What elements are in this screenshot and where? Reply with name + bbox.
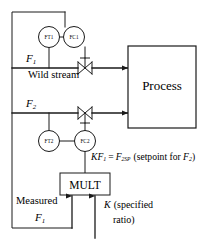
ratio-k-symbol: K <box>104 199 111 210</box>
mult-block-label: MULT <box>69 179 101 191</box>
equation-f1-subscript: 1 <box>103 156 106 162</box>
instrument-fc2: FC2 <box>75 131 96 152</box>
equation-note-open: (setpoint for <box>133 151 183 162</box>
stream2-flow-label: F2 <box>26 98 36 110</box>
instrument-ft1: FT1 <box>39 27 60 48</box>
stream1-flow-label: F1 <box>26 53 36 65</box>
measured-symbol: F <box>35 211 42 223</box>
instrument-bubbles: FT1 FC1 FT2 FC2 <box>39 27 96 152</box>
wild-stream-label: Wild stream <box>28 70 79 81</box>
measured-label: Measured <box>16 196 57 207</box>
stream1-subscript: 1 <box>33 58 36 65</box>
ratio-control-diagram: FT1 FC1 FT2 FC2 Process MULT F1 Wild str… <box>0 0 205 241</box>
stream1-symbol: F <box>26 52 33 64</box>
instrument-ft2-label: FT2 <box>45 138 54 144</box>
setpoint-equation: KF1=F2SP(setpoint for F2) <box>91 152 195 163</box>
ratio-specified-text: (specified <box>114 199 153 210</box>
ratio-input-label-line2: ratio) <box>113 215 135 225</box>
equation-f2-subscript: 2SP <box>122 156 131 162</box>
equation-note-close: ) <box>192 151 195 162</box>
stream2-subscript: 2 <box>33 103 36 110</box>
measured-subscript: 1 <box>42 217 45 224</box>
control-valve-2 <box>78 107 92 123</box>
instrument-fc1: FC1 <box>64 27 85 48</box>
instrument-fc2-label: FC2 <box>80 138 90 144</box>
measured-flow-label: F1 <box>35 212 45 224</box>
instrument-fc1-label: FC1 <box>69 34 79 40</box>
process-block-label: Process <box>142 78 182 93</box>
instrument-ft2: FT2 <box>39 131 60 152</box>
instrument-ft1-label: FT1 <box>45 34 54 40</box>
stream2-symbol: F <box>26 97 33 109</box>
control-valve-1 <box>78 58 92 74</box>
equation-equals: = <box>108 151 113 162</box>
ratio-input-label-line1: K(specified <box>104 200 153 210</box>
